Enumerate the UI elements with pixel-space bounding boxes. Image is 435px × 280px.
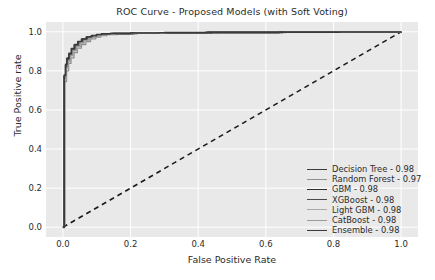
legend-swatch-icon	[307, 209, 327, 210]
legend-swatch-icon	[307, 189, 327, 190]
legend-item-catboost[interactable]: CatBoost - 0.98	[307, 215, 417, 225]
x-axis-label: False Positive Rate	[46, 254, 418, 265]
y-tick-label: 0.2	[0, 183, 42, 193]
legend-item-gbm[interactable]: GBM - 0.98	[307, 184, 417, 194]
legend-item-label: Decision Tree - 0.98	[332, 164, 414, 174]
x-tick-label: 0.4	[178, 239, 218, 249]
legend-item-label: Ensemble - 0.98	[332, 225, 399, 235]
x-tick-label: 0.8	[313, 239, 353, 249]
legend-swatch-icon	[307, 179, 327, 180]
legend-swatch-icon	[307, 169, 327, 170]
legend-swatch-icon	[307, 230, 327, 231]
legend-item-ensemble[interactable]: Ensemble - 0.98	[307, 225, 417, 235]
legend: Decision Tree - 0.98Random Forest - 0.97…	[307, 164, 417, 235]
legend-swatch-icon	[307, 220, 327, 221]
legend-item-label: Random Forest - 0.97	[332, 174, 421, 184]
legend-item-light-gbm[interactable]: Light GBM - 0.98	[307, 205, 417, 215]
x-tick-label: 0.2	[111, 239, 151, 249]
x-tick-label: 0.0	[43, 239, 83, 249]
page-title: ROC Curve - Proposed Models (with Soft V…	[46, 6, 418, 17]
y-axis-label: True Positive rate	[12, 36, 23, 156]
legend-item-decision-tree[interactable]: Decision Tree - 0.98	[307, 164, 417, 174]
roc-curve-figure: ROC Curve - Proposed Models (with Soft V…	[0, 0, 435, 280]
legend-swatch-icon	[307, 199, 327, 200]
x-tick-label: 0.6	[246, 239, 286, 249]
legend-item-label: XGBoost - 0.98	[332, 195, 394, 205]
legend-item-label: GBM - 0.98	[332, 184, 378, 194]
x-tick-label: 1.0	[381, 239, 421, 249]
legend-item-random-forest[interactable]: Random Forest - 0.97	[307, 174, 417, 184]
legend-item-xgboost[interactable]: XGBoost - 0.98	[307, 195, 417, 205]
legend-item-label: CatBoost - 0.98	[332, 215, 396, 225]
x-axis-ticks: 0.00.20.40.60.81.0	[46, 239, 418, 253]
legend-item-label: Light GBM - 0.98	[332, 205, 401, 215]
y-tick-label: 0.0	[0, 222, 42, 232]
